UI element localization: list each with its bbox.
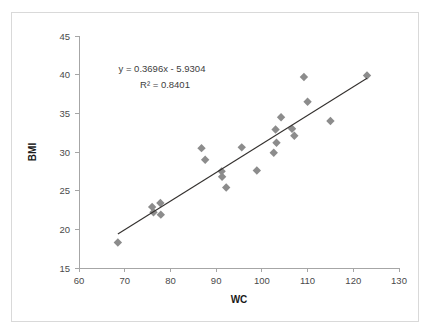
trendline [118,78,367,234]
x-tick-label: 90 [211,275,222,286]
y-tick-label: 45 [59,31,70,42]
data-point-marker [197,144,205,152]
data-point-marker [326,117,334,125]
y-axis-ticks: 15202530354045 [59,31,79,274]
x-axis-ticks: 60708090100110120130 [74,268,407,286]
data-point-marker [272,139,280,147]
data-point-marker [270,149,278,157]
x-tick-label: 60 [74,275,85,286]
data-point-marker [222,183,230,191]
x-tick-label: 120 [345,275,361,286]
x-axis-title: WC [231,294,248,305]
data-point-marker [201,156,209,164]
x-tick-label: 100 [254,275,270,286]
y-tick-label: 15 [59,263,70,274]
y-tick-label: 25 [59,185,70,196]
y-tick-label: 20 [59,224,70,235]
data-point-marker [271,125,279,133]
data-point-marker [218,173,226,181]
data-points [114,71,372,246]
data-point-marker [300,73,308,81]
data-point-marker [114,238,122,246]
data-point-marker [253,166,261,174]
data-point-marker [303,98,311,106]
data-point-marker [288,125,296,133]
x-tick-label: 110 [300,275,315,286]
data-point-marker [238,143,246,151]
y-tick-label: 35 [59,108,70,119]
r-squared-label: R² = 0.8401 [140,79,190,90]
x-tick-label: 70 [119,275,130,286]
y-tick-label: 40 [59,69,70,80]
y-tick-label: 30 [59,147,70,158]
x-tick-label: 130 [391,275,407,286]
data-point-marker [157,210,165,218]
regression-equation-label: y = 0.3696x - 5.9304 [119,63,206,74]
chart-frame: 15202530354045 60708090100110120130 y = … [11,12,419,322]
scatter-plot: 15202530354045 60708090100110120130 y = … [12,13,418,321]
y-axis-title: BMI [27,143,38,162]
data-point-marker [290,132,298,140]
x-tick-label: 80 [165,275,176,286]
data-point-marker [277,113,285,121]
